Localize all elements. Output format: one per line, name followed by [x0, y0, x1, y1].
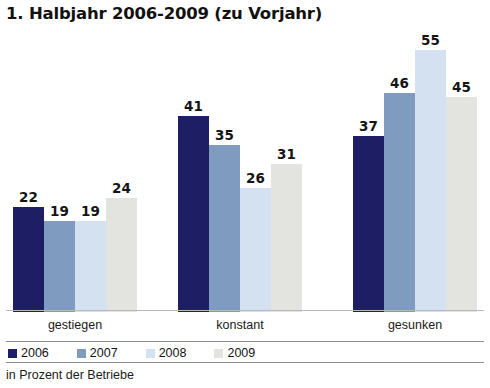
bar-rect	[178, 116, 209, 312]
bar-value-label: 26	[240, 172, 271, 186]
bar-value-label: 46	[384, 77, 415, 91]
legend-swatch-icon	[146, 349, 155, 358]
x-axis-baseline	[6, 310, 484, 311]
bar-gestiegen-2009[interactable]: 24	[106, 26, 137, 312]
bar-gestiegen-2007[interactable]: 19	[44, 26, 75, 312]
bar-rect	[106, 198, 137, 312]
bar-rect	[209, 145, 240, 312]
bar-value-label: 31	[271, 148, 302, 162]
bar-value-label: 22	[13, 191, 44, 205]
bar-konstant-2008[interactable]: 26	[240, 26, 271, 312]
bar-value-label: 24	[106, 182, 137, 196]
bar-konstant-2006[interactable]: 41	[178, 26, 209, 312]
bar-group-gesunken: 37465545	[353, 26, 477, 312]
bar-chart-figure: 1. Halbjahr 2006-2009 (zu Vorjahr) 22191…	[0, 0, 490, 388]
legend-divider-top	[6, 341, 484, 342]
category-label-gestiegen: gestiegen	[13, 318, 137, 332]
bar-rect	[353, 136, 384, 312]
bar-rect	[44, 221, 75, 312]
category-label-konstant: konstant	[178, 318, 302, 332]
bar-group-gestiegen: 22191924	[13, 26, 137, 312]
bar-group-konstant: 41352631	[178, 26, 302, 312]
bar-rect	[415, 50, 446, 312]
bar-value-label: 55	[415, 34, 446, 48]
legend-divider-bottom	[6, 362, 484, 363]
legend-swatch-icon	[8, 349, 17, 358]
bar-gestiegen-2008[interactable]: 19	[75, 26, 106, 312]
category-label-gesunken: gesunken	[353, 318, 477, 332]
legend-item-2006[interactable]: 2006	[8, 346, 49, 360]
bar-rect	[75, 221, 106, 312]
chart-footnote: in Prozent der Betriebe	[6, 368, 134, 382]
legend-label: 2007	[90, 346, 118, 360]
chart-legend: 2006200720082009	[8, 345, 283, 361]
legend-item-2007[interactable]: 2007	[77, 346, 118, 360]
bar-rect	[13, 207, 44, 312]
bar-value-label: 19	[44, 205, 75, 219]
bar-gesunken-2009[interactable]: 45	[446, 26, 477, 312]
bar-value-label: 45	[446, 81, 477, 95]
bar-rect	[240, 188, 271, 312]
bar-konstant-2009[interactable]: 31	[271, 26, 302, 312]
bar-konstant-2007[interactable]: 35	[209, 26, 240, 312]
legend-label: 2008	[159, 346, 187, 360]
legend-label: 2009	[227, 346, 255, 360]
legend-swatch-icon	[214, 349, 223, 358]
plot-area: 221919244135263137465545	[0, 24, 490, 312]
bar-value-label: 35	[209, 129, 240, 143]
legend-label: 2006	[21, 346, 49, 360]
bar-value-label: 19	[75, 205, 106, 219]
bar-gesunken-2006[interactable]: 37	[353, 26, 384, 312]
bar-gestiegen-2006[interactable]: 22	[13, 26, 44, 312]
legend-item-2008[interactable]: 2008	[146, 346, 187, 360]
bar-rect	[271, 164, 302, 312]
bar-value-label: 37	[353, 120, 384, 134]
bar-rect	[384, 93, 415, 312]
bar-gesunken-2008[interactable]: 55	[415, 26, 446, 312]
legend-item-2009[interactable]: 2009	[214, 346, 255, 360]
legend-swatch-icon	[77, 349, 86, 358]
bar-rect	[446, 97, 477, 312]
chart-title: 1. Halbjahr 2006-2009 (zu Vorjahr)	[6, 4, 322, 23]
bar-gesunken-2007[interactable]: 46	[384, 26, 415, 312]
bar-value-label: 41	[178, 100, 209, 114]
